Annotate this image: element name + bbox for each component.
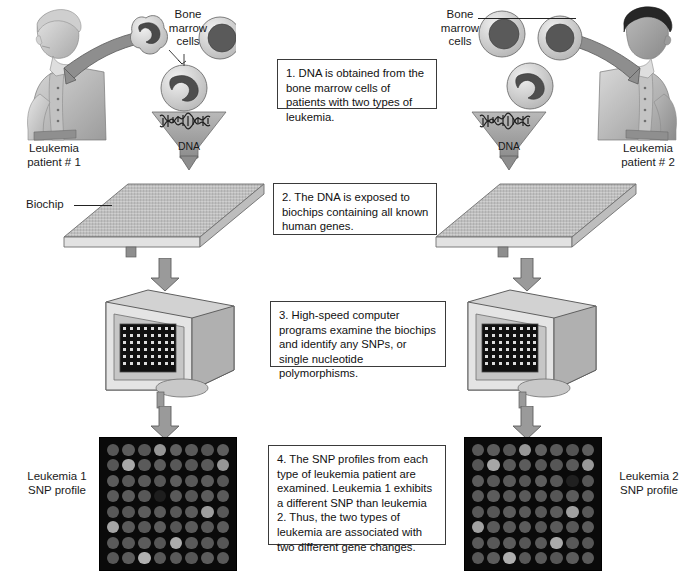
snp-spot — [107, 521, 119, 533]
step-2-text: 2. The DNA is exposed to biochips contai… — [282, 191, 428, 232]
snp-spot — [107, 459, 119, 471]
snp-spot — [582, 490, 594, 502]
snp-spot — [550, 506, 562, 518]
snp-spot — [550, 552, 562, 564]
biochip-left — [62, 183, 266, 259]
snp-spot — [519, 506, 531, 518]
snp-spot — [107, 490, 119, 502]
snp-spot — [535, 475, 547, 487]
step-4-text: 4. The SNP profiles from each type of le… — [277, 453, 432, 553]
snp-spot — [566, 459, 578, 471]
snp-spot — [122, 506, 134, 518]
bone-marrow-cells-right-label: Bone marrow cells — [432, 8, 488, 49]
snp-spot — [566, 521, 578, 533]
snp-spot — [170, 444, 182, 456]
snp-spot — [472, 490, 484, 502]
snp-spot — [185, 521, 197, 533]
snp-spot — [217, 537, 229, 549]
snp-spot — [154, 444, 166, 456]
snp-spot — [185, 490, 197, 502]
snp-spot — [566, 537, 578, 549]
computer-right — [458, 288, 608, 410]
dna-right-label: DNA — [474, 140, 544, 154]
snp-profile-right-label: Leukemia 2 SNP profile — [604, 470, 694, 497]
snp-spot — [519, 521, 531, 533]
snp-spot — [503, 475, 515, 487]
snp-spot — [107, 444, 119, 456]
snp-spot — [185, 506, 197, 518]
arrow-computer-to-snp-left — [150, 406, 180, 440]
snp-spot — [519, 552, 531, 564]
snp-spot — [503, 506, 515, 518]
snp-spot — [503, 444, 515, 456]
diagram-canvas: Leukemia patient # 1 — [0, 0, 700, 576]
snp-spot — [487, 475, 499, 487]
snp-spot — [519, 537, 531, 549]
snp-spot — [170, 537, 182, 549]
snp-spot — [201, 552, 213, 564]
step-2-box: 2. The DNA is exposed to biochips contai… — [273, 183, 437, 235]
snp-spot — [122, 475, 134, 487]
snp-spot — [566, 475, 578, 487]
snp-spot — [217, 444, 229, 456]
bone-marrow-cells-left-label: Bone marrow cells — [160, 8, 216, 49]
snp-spot — [535, 459, 547, 471]
bone-marrow-right-leader-line — [478, 18, 576, 19]
step-4-box: 4. The SNP profiles from each type of le… — [268, 445, 446, 545]
snp-spot — [550, 521, 562, 533]
snp-spot — [122, 552, 134, 564]
patient-right-label: Leukemia patient # 2 — [602, 142, 694, 169]
snp-spot — [519, 475, 531, 487]
snp-spot — [582, 537, 594, 549]
snp-spot — [550, 475, 562, 487]
snp-spot — [122, 459, 134, 471]
snp-spot — [154, 552, 166, 564]
snp-spot — [201, 444, 213, 456]
snp-spot — [138, 552, 150, 564]
snp-spot — [138, 521, 150, 533]
snp-spot — [170, 490, 182, 502]
snp-spot — [201, 459, 213, 471]
snp-spot — [503, 552, 515, 564]
snp-spot — [138, 475, 150, 487]
snp-spot — [487, 506, 499, 518]
snp-spot — [107, 506, 119, 518]
snp-spot — [185, 552, 197, 564]
snp-spot — [201, 475, 213, 487]
snp-spot — [487, 444, 499, 456]
snp-spot — [472, 537, 484, 549]
snp-spot — [217, 552, 229, 564]
snp-spot — [170, 475, 182, 487]
biochip-right — [434, 183, 638, 259]
snp-spot — [185, 475, 197, 487]
snp-spot — [170, 506, 182, 518]
snp-spot — [487, 459, 499, 471]
snp-spot — [154, 490, 166, 502]
snp-spot — [138, 506, 150, 518]
patient-left-label: Leukemia patient # 1 — [8, 142, 100, 169]
snp-spot — [472, 521, 484, 533]
snp-spot — [122, 537, 134, 549]
step-1-text: 1. DNA is obtained from the bone marrow … — [286, 67, 424, 123]
snp-spot — [519, 490, 531, 502]
arrow-chip-to-computer-right — [512, 258, 542, 292]
snp-spot — [582, 459, 594, 471]
snp-spot — [582, 475, 594, 487]
snp-spot — [472, 444, 484, 456]
snp-spot — [201, 490, 213, 502]
snp-spot — [170, 459, 182, 471]
snp-spot — [566, 506, 578, 518]
snp-spot — [535, 506, 547, 518]
snp-spot — [550, 537, 562, 549]
computer-left — [96, 288, 246, 410]
snp-spot — [217, 521, 229, 533]
snp-spot — [107, 475, 119, 487]
snp-spot — [107, 537, 119, 549]
snp-spot — [535, 537, 547, 549]
snp-spot — [566, 490, 578, 502]
snp-profile-right-grid — [464, 437, 602, 571]
step-1-box: 1. DNA is obtained from the bone marrow … — [277, 59, 437, 109]
snp-spot — [217, 506, 229, 518]
snp-spot — [217, 475, 229, 487]
biochip-leader-line — [74, 205, 112, 206]
